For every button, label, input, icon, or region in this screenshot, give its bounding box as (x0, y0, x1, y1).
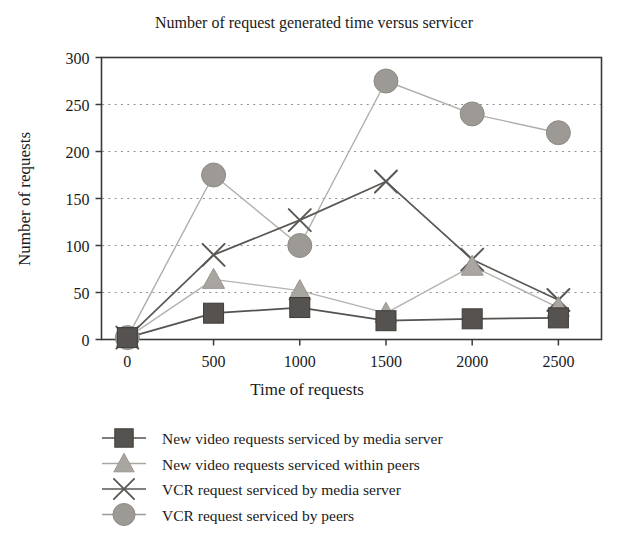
data-point-circle (546, 121, 570, 145)
y-tick-label: 0 (82, 332, 90, 349)
x-tick-label: 0 (123, 353, 131, 370)
data-point-triangle (203, 268, 225, 288)
data-point-square (204, 303, 224, 323)
grid-lines (103, 105, 601, 293)
plot-frame (102, 58, 602, 340)
legend-label: New video requests serviced within peers (162, 456, 420, 473)
chart-title: Number of request generated time versus … (155, 14, 474, 32)
legend-item[interactable]: New video requests serviced within peers (102, 453, 420, 472)
x-tick-label: 1000 (284, 353, 316, 370)
data-point-circle (460, 102, 484, 126)
data-point-cross (289, 209, 311, 231)
legend-label: VCR request serviced by media server (162, 481, 402, 498)
data-point-square (376, 311, 396, 331)
series-line (127, 266, 558, 337)
square-marker (115, 429, 133, 447)
line-chart: Number of request generated time versus … (0, 0, 629, 558)
y-tick-label: 250 (66, 97, 90, 114)
legend-label: New video requests serviced by media ser… (162, 430, 443, 447)
legend-item[interactable]: VCR request serviced by peers (102, 503, 354, 525)
chart-figure: Number of request generated time versus … (0, 0, 629, 558)
data-point-circle (202, 163, 226, 187)
y-tick-label: 50 (74, 285, 90, 302)
y-tick-label: 150 (66, 191, 90, 208)
y-tick-label: 300 (66, 50, 90, 67)
x-axis-tick-labels: 05001000150020002500 (123, 353, 574, 370)
series-line (127, 308, 558, 338)
legend-item[interactable]: VCR request serviced by media server (102, 479, 402, 499)
circle-marker (113, 503, 135, 525)
triangle-marker (114, 453, 134, 471)
x-tick-label: 2000 (456, 353, 488, 370)
data-point-square (548, 308, 568, 328)
y-axis-tick-labels: 050100150200250300 (66, 50, 90, 349)
y-tick-label: 200 (66, 144, 90, 161)
x-tick-label: 1500 (370, 353, 402, 370)
data-point-circle (374, 69, 398, 93)
x-tick-label: 2500 (542, 353, 574, 370)
x-axis-title: Time of requests (250, 380, 364, 399)
series-line (127, 81, 558, 338)
x-axis-ticks (127, 340, 558, 346)
y-axis-ticks (96, 58, 102, 340)
legend-label: VCR request serviced by peers (162, 507, 354, 524)
data-point-circle (288, 234, 312, 258)
data-point-square (117, 328, 137, 348)
x-tick-label: 500 (202, 353, 226, 370)
y-tick-label: 100 (66, 238, 90, 255)
data-point-square (462, 309, 482, 329)
data-series-group (115, 69, 570, 350)
data-point-triangle (461, 255, 483, 275)
data-point-cross (203, 244, 225, 266)
legend-item[interactable]: New video requests serviced by media ser… (102, 429, 443, 447)
chart-legend: New video requests serviced by media ser… (102, 429, 443, 526)
data-point-cross (375, 171, 397, 193)
y-axis-title: Number of requests (15, 132, 34, 266)
data-point-square (290, 298, 310, 318)
